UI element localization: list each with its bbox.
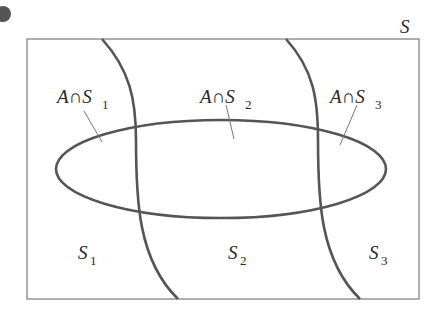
leader-line-2 xyxy=(226,105,234,139)
svg-text:2: 2 xyxy=(240,253,247,268)
svg-text:S: S xyxy=(78,242,88,263)
partition-curve-2 xyxy=(286,39,360,299)
svg-text:2: 2 xyxy=(245,97,252,112)
region-label-3: A∩S 3 xyxy=(328,86,382,112)
svg-text:S: S xyxy=(369,242,379,263)
partition-curve-1 xyxy=(102,39,178,299)
svg-text:3: 3 xyxy=(381,253,388,268)
partition-label-2: S 2 xyxy=(228,242,247,268)
svg-text:3: 3 xyxy=(375,97,382,112)
region-label-1: A∩S 1 xyxy=(55,86,109,112)
region-label-2: A∩S 2 xyxy=(198,86,252,112)
bullet-dot xyxy=(0,6,11,22)
partition-label-3: S 3 xyxy=(369,242,388,268)
svg-text:A∩S: A∩S xyxy=(198,86,235,107)
partition-label-1: S 1 xyxy=(78,242,97,268)
svg-text:A∩S: A∩S xyxy=(328,86,365,107)
svg-text:1: 1 xyxy=(102,97,109,112)
svg-text:A∩S: A∩S xyxy=(55,86,92,107)
partition-venn-diagram: S A∩S 1 A∩S 2 A∩S 3 S 1 S 2 S 3 xyxy=(0,0,437,323)
svg-text:S: S xyxy=(228,242,238,263)
universe-label: S xyxy=(400,16,410,37)
set-a-ellipse xyxy=(56,120,386,218)
svg-text:1: 1 xyxy=(90,253,97,268)
